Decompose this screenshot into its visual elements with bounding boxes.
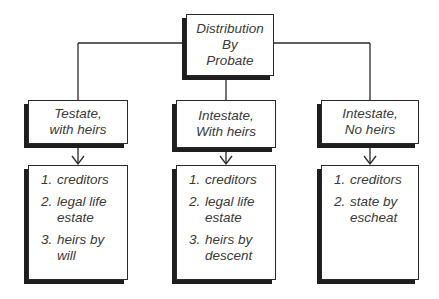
branch-list-testate-with-heirs: 1. creditors 2. legal life estate 3. hei… [28, 165, 128, 280]
root-line: By [222, 37, 238, 53]
list-item: 3. heirs by will [41, 232, 127, 264]
branch-heading-intestate-no-heirs: Intestate, No heirs [321, 100, 419, 144]
probate-distribution-diagram: Distribution By Probate Testate, with he… [0, 0, 439, 299]
list-item: 1. creditors [334, 172, 418, 188]
heading-line: Intestate, [342, 106, 398, 122]
heading-line: With heirs [196, 124, 256, 140]
list-item: 2. legal life estate [41, 194, 127, 226]
branch-list-intestate-no-heirs: 1. creditors 2. state by escheat [321, 165, 419, 280]
root-line: Distribution [196, 21, 264, 37]
branch-list-intestate-with-heirs: 1. creditors 2. legal life estate 3. hei… [176, 165, 276, 280]
branch-heading-testate-with-heirs: Testate, with heirs [28, 100, 128, 144]
list-item: 1. creditors [189, 172, 275, 188]
list-item: 1. creditors [41, 172, 127, 188]
heading-line: Testate, [54, 106, 102, 122]
list-item: 2. state by escheat [334, 194, 418, 226]
list-item: 2. legal life estate [189, 194, 275, 226]
root-line: Probate [206, 53, 253, 69]
branch-heading-intestate-with-heirs: Intestate, With heirs [176, 100, 276, 148]
root-node: Distribution By Probate [186, 14, 274, 76]
heading-line: Intestate, [198, 108, 254, 124]
heading-line: with heirs [49, 122, 106, 138]
heading-line: No heirs [345, 122, 395, 138]
list-item: 3. heirs by descent [189, 232, 275, 264]
